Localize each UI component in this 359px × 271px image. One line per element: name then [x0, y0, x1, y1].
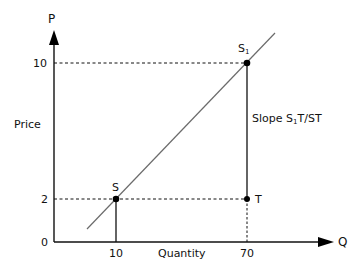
- y-tick-10: 10: [33, 58, 47, 69]
- point-s1: [244, 60, 251, 67]
- y-tick-2: 2: [41, 194, 48, 205]
- diagram-canvas: [0, 0, 359, 271]
- slope-suffix: T/ST: [297, 112, 321, 125]
- y-axis-title: Price: [14, 119, 41, 130]
- slope-annotation: Slope S1T/ST: [252, 113, 322, 126]
- y-axis-arrow-icon: [49, 30, 59, 45]
- point-t-label: T: [255, 194, 262, 205]
- x-tick-10: 10: [109, 248, 123, 259]
- point-s1-subscript: 1: [245, 48, 249, 56]
- point-s-label: S: [112, 182, 119, 193]
- point-s1-letter: S: [238, 42, 245, 55]
- x-axis-arrow-icon: [318, 237, 334, 247]
- y-tick-0: 0: [41, 237, 48, 248]
- x-axis-title: Quantity: [158, 248, 206, 259]
- point-s: [113, 196, 120, 203]
- x-tick-70: 70: [240, 248, 254, 259]
- x-axis-letter: Q: [338, 236, 347, 248]
- y-axis-letter: P: [48, 13, 55, 25]
- point-s1-label: S1: [238, 43, 249, 56]
- slope-prefix: Slope S: [252, 112, 293, 125]
- point-t: [244, 196, 250, 202]
